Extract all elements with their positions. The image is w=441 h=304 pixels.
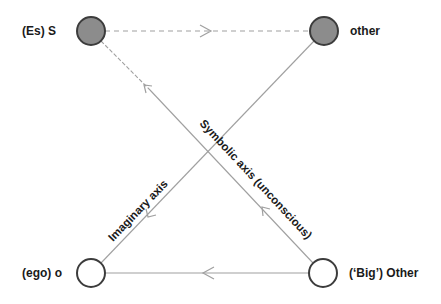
label-s: (Es) S <box>22 24 56 38</box>
node-other-small <box>310 17 338 45</box>
label-other-small: other <box>350 24 380 38</box>
node-s <box>77 17 105 45</box>
arrow-head-symbolic-upper <box>144 85 152 93</box>
edge-symbolic-solid <box>150 90 313 263</box>
label-ego: (ego) o <box>22 266 62 280</box>
label-imaginary-axis: Imaginary axis <box>106 178 170 244</box>
diagram-svg: (Es) S other (ego) o (‘Big’) Other Symbo… <box>0 0 441 304</box>
arrow-head-symbolic-lower <box>262 207 270 216</box>
label-big-other: (‘Big’) Other <box>349 266 419 280</box>
edge-symbolic-dashed <box>101 41 150 90</box>
node-big-other <box>309 259 337 287</box>
schema-l-diagram: (Es) S other (ego) o (‘Big’) Other Symbo… <box>0 0 441 304</box>
node-ego <box>77 259 105 287</box>
label-symbolic-axis: Symbolic axis (unconscious) <box>198 117 315 241</box>
